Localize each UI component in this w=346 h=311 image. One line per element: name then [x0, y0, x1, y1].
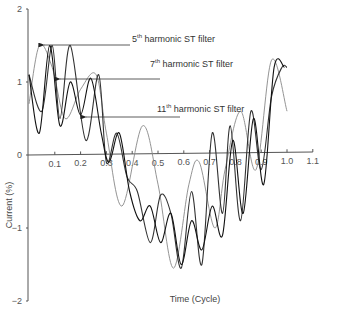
x-tick-label: 0.8 — [229, 157, 242, 167]
x-tick-label: 0.2 — [74, 158, 87, 168]
annotation-label: 11th harmonic ST filter — [157, 103, 244, 114]
y-tick-label: 2 — [17, 4, 22, 14]
series-group — [29, 44, 287, 268]
y-tick-label: 0 — [17, 150, 22, 160]
x-tick-label: 1.0 — [281, 156, 294, 166]
axes: 210−1−20.10.20.30.40.50.60.70.80.91.01.1 — [12, 4, 319, 306]
y-axis-label: Current (%) — [4, 182, 14, 229]
annotation-label: 5th harmonic ST filter — [132, 33, 215, 44]
line-chart: 210−1−20.10.20.30.40.50.60.70.80.91.01.1… — [0, 0, 346, 311]
y-tick-label: 1 — [17, 77, 22, 87]
x-tick-label: 0.6 — [178, 157, 191, 167]
annotation-label: 7th harmonic ST filter — [150, 58, 233, 69]
y-tick-label: −2 — [12, 296, 22, 306]
x-tick-label: 0.1 — [49, 159, 62, 169]
x-axis-line — [28, 152, 313, 155]
x-tick-label: 0.9 — [255, 157, 268, 167]
x-tick-label: 1.1 — [307, 156, 320, 166]
x-axis-label: Time (Cycle) — [170, 294, 221, 304]
